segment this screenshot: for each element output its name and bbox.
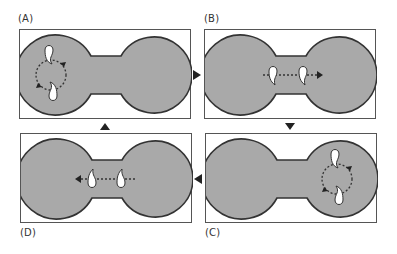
panel-label-a: (A): [18, 13, 33, 24]
dumbbell-chamber-a: [20, 30, 192, 120]
arrow-down-icon: [285, 123, 295, 130]
panel-d: [20, 133, 192, 223]
dumbbell-chamber-c: [206, 134, 378, 224]
panel-label-b: (B): [204, 13, 219, 24]
panel-c: [205, 133, 377, 223]
arrow-up-icon: [100, 123, 110, 130]
panel-label-c: (C): [205, 227, 220, 238]
panel-label-d: (D): [20, 227, 36, 238]
panel-b: [204, 29, 376, 119]
dumbbell-chamber-b: [205, 30, 377, 120]
arrow-left-icon: [194, 174, 202, 184]
arrow-right-icon: [193, 70, 201, 80]
dumbbell-chamber-d: [21, 134, 193, 224]
panel-a: [19, 29, 191, 119]
